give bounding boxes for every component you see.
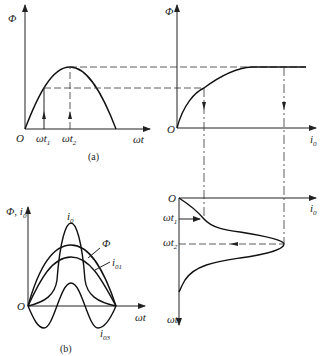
x-label: i0 — [310, 202, 317, 217]
y-label: Φ, i0 — [6, 205, 27, 220]
y-label: ωt — [167, 313, 179, 325]
x-label: ωt — [133, 133, 145, 145]
label-i0: i0 — [67, 210, 74, 225]
arrow-up-icon — [68, 111, 72, 119]
arrow-left-icon — [230, 242, 238, 246]
magnetization-curve-panel: Φ O i0 — [165, 5, 317, 244]
curve-flux — [28, 245, 116, 306]
tick-wt1: ωt1 — [36, 132, 50, 147]
curve-i0 — [28, 223, 116, 306]
caption-b: (b) — [60, 343, 72, 355]
magnetization-curve — [177, 67, 306, 128]
tick-wt2: ωt2 — [163, 236, 178, 251]
curve-i01 — [28, 257, 116, 306]
panel-b-harmonics: Φ, i0 i0 Φ i01 i03 O ωt (b) — [6, 205, 147, 355]
panel-a-flux-time: Φ O ωt1 ωt2 ωt (a) — [8, 5, 306, 163]
tick-wt2: ωt2 — [62, 132, 77, 147]
origin-label: O — [167, 123, 175, 135]
x-label: i0 — [310, 133, 317, 148]
label-i01: i01 — [112, 256, 122, 271]
y-label: Φ — [8, 12, 17, 24]
arrow-down-icon — [282, 102, 286, 110]
origin-label: O — [168, 192, 176, 204]
origin-label: O — [17, 300, 25, 312]
tick-wt1: ωt1 — [163, 211, 177, 226]
label-flux: Φ — [102, 237, 111, 249]
current-waveform-panel: O i0 ωt1 ωt2 ωt — [163, 192, 317, 325]
x-label: ωt — [135, 311, 147, 323]
origin-label: O — [16, 132, 24, 144]
arrow-down-icon — [202, 102, 206, 110]
y-label: Φ — [165, 5, 174, 17]
caption-a: (a) — [88, 151, 99, 163]
magnetizing-current-curve — [179, 198, 284, 292]
label-i03: i03 — [100, 327, 111, 342]
leader-flux — [88, 248, 100, 258]
flux-curve — [25, 67, 116, 129]
arrow-up-icon — [42, 111, 46, 119]
transformer-magnetizing-current-diagram: Φ O ωt1 ωt2 ωt (a) Φ O i0 O i0 ωt1 ωt2 ω… — [0, 0, 326, 356]
